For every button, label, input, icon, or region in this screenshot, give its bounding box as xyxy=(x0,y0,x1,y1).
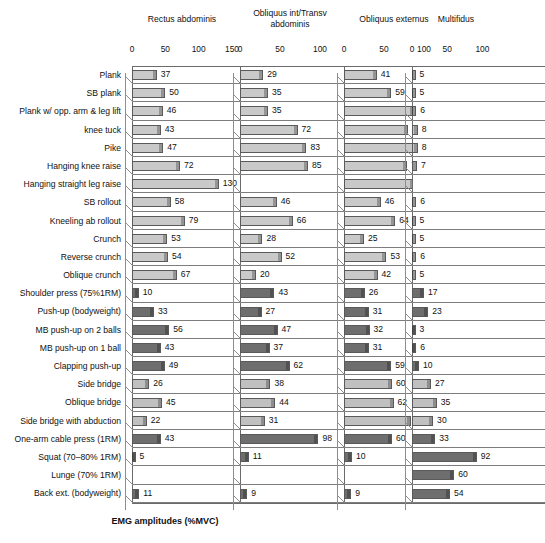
bar-row: 10 xyxy=(412,357,545,375)
bar-row: 5 xyxy=(412,266,545,284)
bar xyxy=(412,434,435,444)
bar-row: 92 xyxy=(412,448,545,466)
bar-row: 27 xyxy=(412,375,545,393)
bar xyxy=(240,288,274,298)
bar xyxy=(344,125,408,135)
bar-end-cap xyxy=(243,490,246,498)
bar-end-cap xyxy=(431,435,434,443)
x-tick-0-0: 0 xyxy=(130,44,135,54)
bar xyxy=(240,88,268,98)
bar xyxy=(412,161,417,171)
bar xyxy=(344,325,370,335)
bar-value-label: 31 xyxy=(373,342,383,353)
bar-end-cap xyxy=(259,71,262,79)
bar xyxy=(344,234,364,244)
bar-end-cap xyxy=(420,289,423,297)
bar-value-label: 3 xyxy=(420,324,425,335)
bar-row: 3 xyxy=(412,321,545,339)
bar-row: 5 xyxy=(412,84,545,102)
bar-end-cap xyxy=(261,417,264,425)
bar-row: 6 xyxy=(412,339,545,357)
bar-end-cap xyxy=(159,107,162,115)
bar-value-label: 42 xyxy=(382,269,392,280)
y-axis-label-7: SB rollout xyxy=(0,193,124,211)
bar-end-cap xyxy=(473,453,476,461)
bar-end-cap xyxy=(412,107,415,115)
bar xyxy=(412,307,428,317)
bar xyxy=(344,489,351,499)
x-tick-3-0: 0 xyxy=(410,44,415,54)
y-axis-label-12: Shoulder press (75%1RM) xyxy=(0,284,124,302)
bar xyxy=(412,452,477,462)
bar-end-cap xyxy=(135,289,138,297)
y-axis-label-21: Squat (70–80% 1RM) xyxy=(0,448,124,466)
bar-end-cap xyxy=(176,162,179,170)
bar xyxy=(240,325,278,335)
bar-value-label: 28 xyxy=(266,233,276,244)
bar xyxy=(132,125,161,135)
bar xyxy=(344,179,414,189)
bar-value-label: 5 xyxy=(420,69,425,80)
bar xyxy=(412,288,424,298)
bar-row: 6 xyxy=(412,248,545,266)
bar-value-label: 6 xyxy=(420,105,425,116)
bar-value-label: 33 xyxy=(158,306,168,317)
bar-end-cap xyxy=(366,326,369,334)
bar xyxy=(412,143,418,153)
bar-value-label: 60 xyxy=(458,469,468,480)
bar-end-cap xyxy=(388,380,391,388)
bar-value-label: 5 xyxy=(420,87,425,98)
bar xyxy=(240,270,256,280)
bar xyxy=(344,88,391,98)
bar xyxy=(344,216,395,226)
bar-row xyxy=(412,175,545,193)
y-axis-label-20: One-arm cable press (1RM) xyxy=(0,430,124,448)
bar xyxy=(412,270,416,280)
bar-end-cap xyxy=(258,308,261,316)
bar-end-cap xyxy=(163,235,166,243)
y-axis-label-9: Crunch xyxy=(0,230,124,248)
bar-end-cap xyxy=(289,217,292,225)
y-axis-label-15: MB push-up on 1 ball xyxy=(0,339,124,357)
y-axis-label-2: Plank w/ opp. arm & leg lift xyxy=(0,102,124,120)
bar-end-cap xyxy=(412,198,415,206)
bar-end-cap xyxy=(181,217,184,225)
bar xyxy=(132,416,147,426)
bar-end-cap xyxy=(273,198,276,206)
bar-value-label: 46 xyxy=(385,196,395,207)
bar-end-cap xyxy=(294,126,297,134)
bar-end-cap xyxy=(347,490,350,498)
bar-value-label: 37 xyxy=(161,69,171,80)
bar-end-cap xyxy=(391,217,394,225)
y-axis-label-19: Side bridge with abduction xyxy=(0,412,124,430)
bar xyxy=(344,161,407,171)
bar xyxy=(240,125,298,135)
bar-end-cap xyxy=(374,271,377,279)
bar xyxy=(412,416,433,426)
bar-end-cap xyxy=(360,235,363,243)
bar-value-label: 11 xyxy=(143,488,152,499)
bar xyxy=(132,325,169,335)
bar xyxy=(344,361,391,371)
bar-end-cap xyxy=(167,198,170,206)
bar-end-cap xyxy=(413,162,416,170)
bar-row: 5 xyxy=(412,212,545,230)
bar-value-label: 41 xyxy=(381,69,391,80)
bar xyxy=(412,234,416,244)
bar xyxy=(240,234,262,244)
x-tick-0-2: 100 xyxy=(192,44,206,54)
panel-obliquus-int-transv-abdominis: Obliquus int/Transv abdominis05010029353… xyxy=(240,0,340,543)
bar-value-label: 9 xyxy=(355,488,360,499)
bar-value-label: 72 xyxy=(184,160,194,171)
bar xyxy=(132,361,165,371)
bar-row: 5 xyxy=(412,230,545,248)
bar xyxy=(132,70,157,80)
bar-end-cap xyxy=(387,89,390,97)
panel-title-0: Rectus abdominis xyxy=(132,14,232,25)
bar-end-cap xyxy=(314,435,317,443)
bar-value-label: 35 xyxy=(272,87,282,98)
bar-row: 33 xyxy=(412,430,545,448)
bar-end-cap xyxy=(412,71,415,79)
bar xyxy=(132,197,171,207)
bar-value-label: 43 xyxy=(165,124,175,135)
